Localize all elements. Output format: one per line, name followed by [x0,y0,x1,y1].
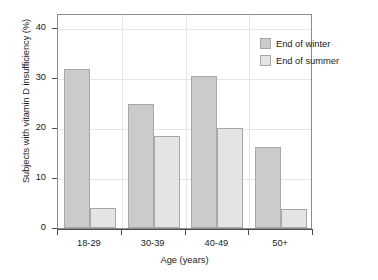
x-tick-mark [121,229,122,235]
legend-label: End of winter [276,39,330,49]
bar [191,76,217,228]
y-tick-mark [52,28,57,29]
x-tick-label: 40-49 [184,238,248,248]
x-tick-mark [248,229,249,235]
y-tick-label: 20 [12,122,46,132]
x-tick-mark [312,229,313,235]
x-axis-title: Age (years) [57,255,312,265]
legend-item: End of winter [260,35,339,52]
chart-legend: End of winterEnd of summer [260,35,339,69]
x-tick-mark [57,229,58,235]
x-tick-label: 18-29 [57,238,121,248]
bar [255,147,281,228]
gridline-horizontal [58,29,311,30]
bar [90,208,116,229]
y-tick-label: 30 [12,72,46,82]
gridline-vertical [249,15,250,228]
y-tick-mark [52,78,57,79]
y-tick-label: 40 [12,22,46,32]
gridline-horizontal [58,79,311,80]
bar [64,69,90,229]
bar-chart-figure: Subjects with vitamin D insufficiency (%… [0,0,378,280]
gridline-vertical [186,15,187,228]
y-tick-label: 0 [12,222,46,232]
y-tick-mark [52,178,57,179]
legend-label: End of summer [276,56,339,66]
y-tick-label: 10 [12,172,46,182]
bar [281,209,307,228]
legend-item: End of summer [260,52,339,69]
legend-swatch-icon [260,38,271,49]
bar [128,104,154,228]
x-tick-label: 50+ [248,238,312,248]
legend-swatch-icon [260,55,271,66]
bar [154,136,180,229]
y-tick-mark [52,128,57,129]
bar [217,128,243,228]
gridline-horizontal [58,129,311,130]
x-tick-mark [185,229,186,235]
gridline-vertical [122,15,123,228]
x-tick-label: 30-39 [121,238,185,248]
